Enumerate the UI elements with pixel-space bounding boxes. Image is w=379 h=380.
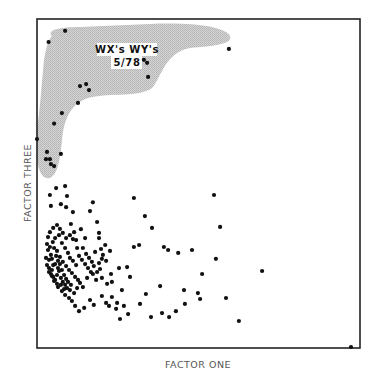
data-point bbox=[64, 205, 68, 209]
data-point bbox=[53, 262, 57, 266]
data-point bbox=[84, 82, 88, 86]
data-point bbox=[58, 255, 62, 259]
data-point bbox=[120, 288, 124, 292]
data-point bbox=[227, 47, 231, 51]
data-point bbox=[65, 194, 69, 198]
data-point bbox=[64, 236, 68, 240]
data-point bbox=[52, 122, 56, 126]
data-point bbox=[50, 257, 54, 261]
data-point bbox=[122, 304, 126, 308]
data-point bbox=[71, 237, 75, 241]
data-point bbox=[63, 246, 67, 250]
data-point bbox=[110, 295, 114, 299]
data-point bbox=[46, 235, 50, 239]
data-point bbox=[59, 202, 63, 206]
data-point bbox=[125, 265, 129, 269]
data-point bbox=[75, 286, 79, 290]
annotation-line2: 5/78 bbox=[114, 57, 141, 68]
data-point bbox=[66, 251, 70, 255]
data-point bbox=[162, 245, 166, 249]
data-point bbox=[49, 162, 53, 166]
data-point bbox=[63, 293, 67, 297]
data-point bbox=[48, 245, 52, 249]
data-point bbox=[143, 214, 147, 218]
data-point bbox=[109, 272, 113, 276]
data-point bbox=[71, 210, 75, 214]
data-point bbox=[114, 307, 118, 311]
data-point bbox=[60, 241, 64, 245]
data-point bbox=[53, 278, 57, 282]
data-point bbox=[212, 193, 216, 197]
data-point bbox=[70, 299, 74, 303]
data-point bbox=[70, 271, 74, 275]
data-point bbox=[80, 258, 84, 262]
data-point bbox=[224, 296, 228, 300]
data-point bbox=[56, 266, 60, 270]
data-point bbox=[100, 276, 104, 280]
data-point bbox=[87, 88, 91, 92]
data-point bbox=[72, 230, 76, 234]
data-point bbox=[58, 227, 62, 231]
data-point bbox=[81, 285, 85, 289]
data-point bbox=[48, 157, 52, 161]
data-point bbox=[97, 231, 101, 235]
data-point bbox=[82, 306, 86, 310]
data-point bbox=[59, 152, 63, 156]
data-point bbox=[92, 264, 96, 268]
data-point bbox=[35, 137, 39, 141]
data-point bbox=[63, 29, 67, 33]
data-point bbox=[138, 302, 142, 306]
data-point bbox=[166, 248, 170, 252]
data-point bbox=[87, 256, 91, 260]
data-point bbox=[78, 84, 82, 88]
data-point bbox=[49, 253, 53, 257]
data-point bbox=[49, 204, 53, 208]
data-point bbox=[110, 280, 114, 284]
data-point bbox=[99, 247, 103, 251]
data-point bbox=[117, 266, 121, 270]
data-point bbox=[53, 236, 57, 240]
data-point bbox=[69, 283, 73, 287]
data-point bbox=[100, 257, 104, 261]
data-point bbox=[260, 269, 264, 273]
data-point bbox=[105, 282, 109, 286]
data-point bbox=[93, 250, 97, 254]
data-point bbox=[200, 272, 204, 276]
data-point bbox=[126, 312, 130, 316]
data-point bbox=[85, 276, 89, 280]
data-point bbox=[183, 302, 187, 306]
data-point bbox=[52, 246, 56, 250]
data-point bbox=[62, 287, 66, 291]
data-point bbox=[167, 315, 171, 319]
data-point bbox=[51, 240, 55, 244]
data-point bbox=[103, 243, 107, 247]
data-point bbox=[145, 61, 149, 65]
data-point bbox=[104, 259, 108, 263]
data-point bbox=[94, 278, 98, 282]
data-point bbox=[71, 259, 75, 263]
data-point bbox=[84, 252, 88, 256]
data-point bbox=[60, 111, 64, 115]
data-point bbox=[81, 246, 85, 250]
data-point bbox=[108, 249, 112, 253]
data-point bbox=[137, 243, 141, 247]
data-point bbox=[54, 254, 58, 258]
data-point bbox=[190, 248, 194, 252]
data-point bbox=[86, 266, 90, 270]
annotation-line1: WX's WY's bbox=[95, 44, 159, 55]
data-point bbox=[90, 260, 94, 264]
data-point bbox=[72, 291, 76, 295]
data-point bbox=[160, 311, 164, 315]
data-point bbox=[104, 301, 108, 305]
data-point bbox=[237, 319, 241, 323]
data-point bbox=[218, 225, 222, 229]
data-point bbox=[349, 345, 353, 349]
data-point bbox=[97, 236, 101, 240]
data-point bbox=[89, 270, 93, 274]
data-point bbox=[92, 303, 96, 307]
data-point bbox=[146, 75, 150, 79]
data-point bbox=[132, 245, 136, 249]
data-point bbox=[63, 184, 67, 188]
data-point bbox=[62, 273, 66, 277]
data-point bbox=[68, 233, 72, 237]
